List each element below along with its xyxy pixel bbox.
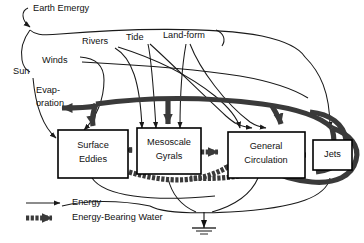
flow-winds-spine <box>82 62 308 98</box>
diagram-canvas <box>0 0 364 243</box>
water-right-inner-loop <box>310 112 346 172</box>
flow-earth-emergy-hook <box>23 8 30 27</box>
flow-landform-to-mesoscale <box>180 44 186 128</box>
flow-landform-envelope <box>216 30 224 46</box>
energy-systems-diagram: Surface Eddies Mesoscale Gyrals General … <box>0 0 364 243</box>
flow-right-feedback-left <box>62 202 150 207</box>
flow-earth-emergy-spine <box>30 29 305 57</box>
flow-surface-eddies-feedback <box>92 178 215 198</box>
water-to-evaporation <box>62 106 96 108</box>
water-main-spine <box>96 99 332 128</box>
flow-sun-envelope <box>21 30 30 72</box>
flow-tide-to-mesoscale <box>148 44 156 128</box>
flow-mesoscale-to-sink <box>168 178 196 212</box>
heat-sink-symbol <box>192 212 216 234</box>
flow-sun-to-surface-eddies <box>33 78 56 138</box>
flow-rivers-to-mesoscale <box>115 48 142 128</box>
flow-rivers-to-general <box>118 47 240 128</box>
flow-general-to-sink <box>212 178 258 212</box>
